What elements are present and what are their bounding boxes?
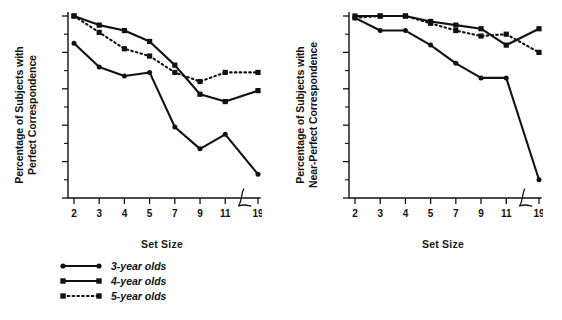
series-line-left-1-break-segment: [225, 91, 258, 102]
data-point: [97, 30, 102, 35]
x-tick-label-9: 9: [478, 208, 484, 218]
x-tick-label-19: 19: [533, 208, 543, 218]
page-artifact: [0, 313, 562, 320]
data-point: [198, 146, 203, 151]
series-line-left-0-break-segment: [225, 134, 258, 174]
data-point: [479, 75, 484, 80]
legend-label: 4-year olds: [106, 275, 166, 287]
figure-root: Percentage of Subjects with Perfect Corr…: [0, 0, 562, 320]
x-tick-label-9: 9: [197, 208, 203, 218]
x-tick-label-4: 4: [122, 208, 128, 218]
legend-marker-sample: [96, 278, 101, 283]
legend-marker-sample: [96, 263, 101, 268]
data-point: [147, 53, 152, 58]
legend-item: 3-year olds: [58, 258, 278, 273]
data-point: [403, 28, 408, 33]
legend-marker-sample: [96, 293, 101, 298]
legend-key-3-year: [58, 260, 106, 272]
data-point: [428, 43, 433, 48]
series-line-left-1: [74, 16, 225, 102]
data-point: [122, 28, 127, 33]
plot-area-right: 0204060801002345791119: [343, 12, 543, 218]
data-point: [197, 92, 202, 97]
plot-area-left: 0204060801002345791119: [62, 12, 262, 218]
y-axis-label-right: Percentage of Subjects with Near-Perfect…: [294, 12, 320, 218]
data-point: [97, 23, 102, 28]
data-point: [172, 70, 177, 75]
data-point: [172, 63, 177, 68]
x-tick-label-5: 5: [147, 208, 153, 218]
legend-key-5-year: [58, 290, 106, 302]
x-tick-label-7: 7: [453, 208, 459, 218]
x-tick-label-5: 5: [428, 208, 434, 218]
series-line-right-0-break-segment: [506, 78, 539, 180]
data-point: [147, 39, 152, 44]
data-point: [256, 172, 261, 177]
legend-label: 5-year olds: [106, 290, 166, 302]
data-point: [197, 79, 202, 84]
x-tick-label-3: 3: [377, 208, 383, 218]
x-axis-label-right: Set Size: [343, 238, 543, 250]
data-point: [223, 132, 228, 137]
data-point: [122, 74, 127, 79]
data-point: [428, 21, 433, 26]
legend-marker-sample: [60, 263, 65, 268]
data-point: [352, 15, 357, 20]
x-axis-label-left: Set Size: [62, 238, 262, 250]
data-point: [504, 32, 509, 37]
data-point: [172, 125, 177, 130]
legend: 3-year olds4-year olds5-year olds: [58, 258, 278, 303]
x-tick-label-4: 4: [403, 208, 409, 218]
legend-key-4-year: [58, 275, 106, 287]
x-tick-label-2: 2: [71, 208, 77, 218]
data-point: [453, 28, 458, 33]
data-point: [504, 75, 509, 80]
x-tick-label-3: 3: [96, 208, 102, 218]
legend-label: 3-year olds: [106, 260, 166, 272]
legend-marker-sample: [60, 278, 65, 283]
data-point: [378, 28, 383, 33]
data-point: [453, 23, 458, 28]
data-point: [536, 26, 541, 31]
data-point: [255, 70, 260, 75]
legend-marker-sample: [60, 293, 65, 298]
panel-container: Percentage of Subjects with Perfect Corr…: [0, 0, 562, 262]
y-axis-label-left: Percentage of Subjects with Perfect Corr…: [13, 12, 39, 218]
data-point: [537, 177, 542, 182]
x-tick-label-11: 11: [501, 208, 512, 218]
data-point: [478, 26, 483, 31]
data-point: [478, 33, 483, 38]
x-tick-label-7: 7: [172, 208, 178, 218]
data-point: [255, 88, 260, 93]
legend-item: 4-year olds: [58, 273, 278, 288]
x-tick-label-19: 19: [252, 208, 262, 218]
panel-right: Percentage of Subjects with Near-Perfect…: [281, 0, 562, 262]
legend-item: 5-year olds: [58, 288, 278, 303]
axis-lines-right: [349, 12, 541, 198]
panel-left: Percentage of Subjects with Perfect Corr…: [0, 0, 281, 262]
data-point: [97, 64, 102, 69]
data-point: [122, 46, 127, 51]
x-tick-label-11: 11: [220, 208, 231, 218]
data-point: [72, 41, 77, 46]
data-point: [147, 70, 152, 75]
data-point: [504, 43, 509, 48]
data-point: [453, 61, 458, 66]
data-point: [378, 13, 383, 18]
data-point: [223, 99, 228, 104]
x-tick-label-2: 2: [352, 208, 358, 218]
data-point: [403, 13, 408, 18]
data-point: [223, 70, 228, 75]
data-point: [71, 13, 76, 18]
data-point: [536, 50, 541, 55]
